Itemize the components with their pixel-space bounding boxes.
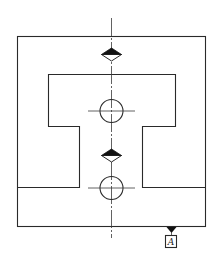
symmetry-diamond-lower bbox=[102, 149, 122, 162]
technical-drawing bbox=[0, 0, 224, 271]
datum-label: A bbox=[165, 235, 177, 248]
symmetry-diamond-upper bbox=[102, 48, 122, 61]
